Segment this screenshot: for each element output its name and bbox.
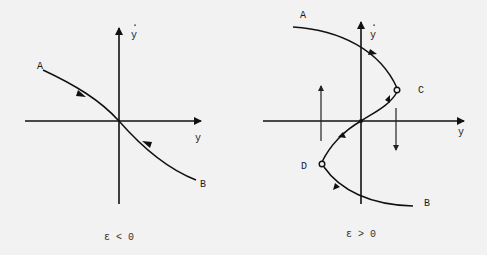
right-label-d: D (301, 161, 307, 172)
right-y-label: y (458, 127, 464, 138)
phase-diagram: A B y · y ε < 0 A C D B y · y ε > 0 (0, 0, 487, 255)
right-flow-arrow-a-icon (368, 49, 377, 55)
left-panel: A B y · y ε < 0 (25, 20, 206, 243)
left-y-label: y (195, 133, 201, 144)
right-flow-arrow-b-icon (333, 183, 340, 190)
right-label-a: A (300, 10, 306, 21)
right-flow-arrow-c-icon (385, 95, 390, 103)
right-curve-mid-upper (361, 92, 397, 121)
right-ydot-dot: · (371, 20, 377, 31)
left-ydot-dot: · (132, 20, 138, 31)
right-curve-upper (293, 27, 397, 88)
right-panel: A C D B y · y ε > 0 (263, 10, 464, 240)
left-label-b: B (200, 179, 206, 190)
turning-point-c-icon (394, 87, 400, 93)
turning-point-d-icon (319, 161, 325, 167)
left-caption: ε < 0 (104, 232, 134, 243)
origin-dot-icon (359, 119, 363, 123)
left-ydot-label: y (131, 30, 137, 41)
right-caption: ε > 0 (346, 229, 376, 240)
right-ydot-label: y (370, 30, 376, 41)
left-flow-arrow-down-icon (76, 90, 86, 97)
right-label-c: C (418, 85, 424, 96)
right-label-b: B (424, 198, 430, 209)
right-curve-mid-lower (322, 121, 361, 162)
left-label-a: A (37, 61, 43, 72)
